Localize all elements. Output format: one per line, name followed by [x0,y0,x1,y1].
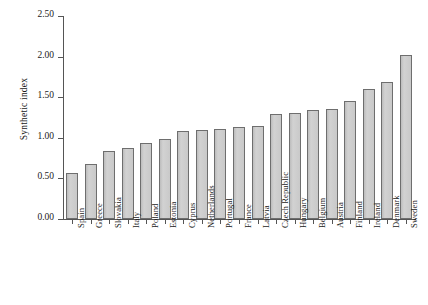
x-tick-label-france: France [243,204,253,228]
x-tick-mark [350,220,351,224]
x-tick-mark [91,220,92,224]
x-tick-label-estonia: Estonia [168,202,178,228]
x-tick-mark [239,220,240,224]
plot-area [63,16,415,219]
y-tick-label: 2.50 [22,10,54,20]
y-tick-mark [58,219,63,220]
x-tick-mark [146,220,147,224]
x-tick-mark [109,220,110,224]
bar-chart-figure: Synthetic index 0.000.501.001.502.002.50… [0,0,428,305]
x-tick-mark [165,220,166,224]
x-tick-label-italy: Italy [131,212,141,228]
x-tick-label-portugal: Portugal [224,198,234,228]
x-tick-mark [406,220,407,224]
x-tick-label-spain: Spain [76,208,86,228]
x-tick-label-greece: Greece [94,203,104,228]
x-tick-mark [183,220,184,224]
x-tick-label-netherlands: Netherlands [206,185,216,228]
bar-ireland [363,89,375,219]
x-tick-mark [258,220,259,224]
x-tick-label-poland: Poland [150,204,160,228]
y-tick-label: 2.00 [22,51,54,61]
x-tick-mark [202,220,203,224]
x-tick-label-slovakia: Slovakia [113,197,123,228]
x-tick-mark [387,220,388,224]
x-tick-mark [332,220,333,224]
x-tick-label-latvia: Latvia [261,205,271,228]
x-tick-mark [295,220,296,224]
x-tick-label-ireland: Ireland [372,203,382,228]
x-tick-mark [72,220,73,224]
y-tick-label: 0.00 [22,213,54,223]
x-tick-label-belgium: Belgium [317,198,327,228]
y-axis-title: Synthetic index [19,49,29,169]
bar-italy [122,148,134,219]
x-tick-label-cyprus: Cyprus [187,203,197,228]
x-tick-mark [220,220,221,224]
x-tick-label-austria: Austria [335,202,345,228]
x-tick-label-sweden: Sweden [409,200,419,228]
x-tick-label-denmark: Denmark [391,195,401,228]
x-tick-label-czech-republic: Czech Republic [280,172,290,228]
x-tick-mark [128,220,129,224]
x-tick-mark [276,220,277,224]
x-tick-mark [369,220,370,224]
y-tick-label: 0.50 [22,172,54,182]
bar-sweden [400,55,412,219]
x-tick-label-hungary: Hungary [298,197,308,228]
x-tick-label-finland: Finland [354,201,364,228]
x-tick-mark [313,220,314,224]
y-tick-label: 1.00 [22,132,54,142]
y-tick-label: 1.50 [22,91,54,101]
